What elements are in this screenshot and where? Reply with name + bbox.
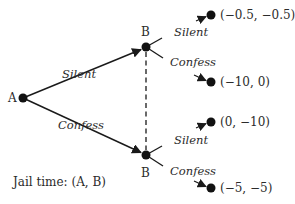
leaf-node-3: [207, 118, 216, 127]
edge-label-a-confess: Confess: [58, 118, 104, 132]
edge-bl-silent-arrow: [196, 124, 206, 129]
edge-label-bu-confess: Confess: [170, 55, 216, 69]
leaf-node-4: [207, 184, 216, 193]
edge-label-a-silent: Silent: [62, 67, 96, 81]
edge-label-bl-confess: Confess: [170, 164, 216, 178]
edge-bl-confess-arrow: [194, 181, 206, 187]
node-b-upper: [142, 43, 151, 52]
node-a: [19, 94, 28, 103]
leaf-node-1: [207, 11, 216, 20]
edge-bu-silent-arrow: [196, 17, 206, 22]
payoff-leaf-1: (−0.5, −0.5): [220, 8, 295, 22]
node-b-upper-label: B: [141, 25, 150, 39]
edge-bu-confess-arrow: [194, 75, 206, 81]
node-a-label: A: [7, 91, 17, 105]
legend-jail-time: Jail time: (A, B): [11, 175, 106, 189]
game-tree-diagram: A B B Silent Confess Silent Confess Sile…: [0, 0, 295, 204]
node-b-lower-label: B: [141, 166, 150, 180]
edge-label-bu-silent: Silent: [174, 25, 208, 39]
payoff-leaf-3: (0, −10): [220, 115, 270, 129]
payoff-leaf-4: (−5, −5): [220, 181, 272, 195]
payoff-leaf-2: (−10, 0): [220, 75, 270, 89]
leaf-node-2: [207, 78, 216, 87]
edge-label-bl-silent: Silent: [174, 133, 208, 147]
node-b-lower: [142, 151, 151, 160]
